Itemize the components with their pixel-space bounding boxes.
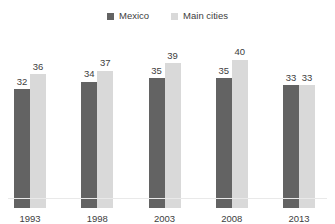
data-label: 32 <box>17 77 28 87</box>
data-label: 35 <box>151 66 162 76</box>
bar-mexico <box>14 89 30 207</box>
bar-column: 37 <box>97 58 113 207</box>
data-label: 40 <box>234 47 245 57</box>
bar-mexico <box>283 85 299 207</box>
bar-column: 35 <box>149 66 165 208</box>
data-label: 33 <box>302 73 313 83</box>
legend-item-main-cities: Main cities <box>171 11 228 21</box>
legend-swatch-mexico <box>107 13 114 20</box>
bar-chart: Mexico Main cities 323619933437199835392… <box>0 0 335 223</box>
bar-column: 34 <box>81 69 97 207</box>
data-label: 35 <box>218 66 229 76</box>
legend-item-mexico: Mexico <box>107 11 149 21</box>
data-label: 33 <box>286 73 297 83</box>
bar-column: 39 <box>165 51 181 208</box>
x-axis-label: 2008 <box>221 214 242 224</box>
bar-column: 35 <box>216 66 232 208</box>
bar-group-1993: 32361993 <box>14 38 46 224</box>
bars-pair: 3236 <box>14 38 46 208</box>
x-axis-label: 2003 <box>154 214 175 224</box>
bar-main-cities <box>299 85 315 207</box>
bar-group-2013: 33332013 <box>283 38 315 224</box>
bar-column: 40 <box>232 47 248 208</box>
bar-main-cities <box>232 60 248 208</box>
data-label: 39 <box>167 51 178 61</box>
bars-pair: 3539 <box>149 38 181 208</box>
legend-label-mexico: Mexico <box>119 11 149 21</box>
bar-mexico <box>216 78 232 208</box>
x-axis-line <box>8 198 327 199</box>
chart-legend: Mexico Main cities <box>0 0 335 23</box>
bar-main-cities <box>30 74 46 207</box>
bars-pair: 3333 <box>283 38 315 208</box>
data-label: 34 <box>84 69 95 79</box>
bar-mexico <box>81 82 97 208</box>
legend-swatch-main-cities <box>171 13 178 20</box>
data-label: 37 <box>100 58 111 68</box>
bar-main-cities <box>97 71 113 208</box>
x-axis-label: 1998 <box>87 214 108 224</box>
x-axis-label: 1993 <box>19 214 40 224</box>
bar-group-1998: 34371998 <box>81 38 113 224</box>
plot-area: 3236199334371998353920033540200833332013 <box>0 28 335 223</box>
legend-label-main-cities: Main cities <box>183 11 228 21</box>
x-axis-label: 2013 <box>288 214 309 224</box>
bars-pair: 3540 <box>216 38 248 208</box>
bar-group-2008: 35402008 <box>216 38 248 224</box>
bar-mexico <box>149 78 165 208</box>
bar-column: 32 <box>14 77 30 208</box>
bar-column: 33 <box>283 73 299 208</box>
bar-column: 33 <box>299 73 315 208</box>
bar-column: 36 <box>30 62 46 208</box>
bar-group-2003: 35392003 <box>149 38 181 224</box>
bar-main-cities <box>165 63 181 207</box>
data-label: 36 <box>33 62 44 72</box>
bars-pair: 3437 <box>81 38 113 208</box>
